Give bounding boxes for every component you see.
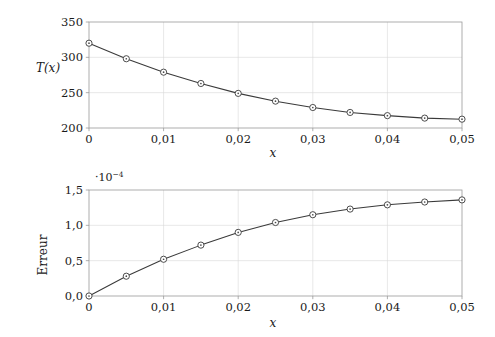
chart-error-profile: 00,010,020,030,040,05 0,00,51,01,5 ·10−4…: [0, 160, 495, 337]
y-tick-label: 1,0: [65, 218, 83, 232]
data-point-center: [125, 275, 127, 277]
data-point-center: [461, 199, 463, 201]
data-point-center: [424, 117, 426, 119]
data-point-center: [461, 118, 463, 120]
x-tick-label: 0,01: [151, 300, 177, 314]
top-y-tick-labels: 200250300350: [61, 15, 83, 135]
y-tick-label: 0,0: [65, 289, 83, 303]
data-point-center: [312, 214, 314, 216]
data-point-center: [163, 258, 165, 260]
x-tick-label: 0,03: [300, 132, 326, 146]
x-tick-label: 0,05: [449, 300, 475, 314]
data-point-center: [237, 232, 239, 234]
data-point-center: [88, 42, 90, 44]
x-tick-label: 0,03: [300, 300, 326, 314]
figure-container: 00,010,020,030,040,05 200250300350 T(x) …: [0, 0, 495, 337]
bottom-gridlines: [89, 190, 462, 296]
top-y-axis-label: T(x): [36, 61, 60, 75]
top-plot-frame: [89, 22, 462, 128]
data-point-center: [275, 222, 277, 224]
data-point-center: [387, 115, 389, 117]
y-tick-label: 250: [61, 86, 83, 100]
top-data-markers: [86, 40, 465, 122]
bottom-data-line: [89, 200, 462, 296]
x-tick-label: 0: [85, 132, 92, 146]
x-tick-label: 0,02: [225, 300, 251, 314]
x-tick-label: 0,04: [375, 132, 401, 146]
x-tick-label: 0,05: [449, 132, 475, 146]
y-tick-label: 1,5: [65, 183, 83, 197]
bottom-y-exponent-label: ·10−4: [95, 170, 124, 184]
data-point-center: [163, 71, 165, 73]
data-point-center: [237, 93, 239, 95]
chart-temperature-profile: 00,010,020,030,040,05 200250300350 T(x) …: [0, 0, 495, 170]
bottom-x-tick-labels: 00,010,020,030,040,05: [85, 300, 474, 314]
y-tick-label: 200: [61, 121, 83, 135]
chart-bottom-svg: 00,010,020,030,040,05 0,00,51,01,5 ·10−4…: [0, 160, 495, 337]
x-tick-label: 0,01: [151, 132, 177, 146]
top-tickmarks: [86, 22, 462, 131]
bottom-x-axis-label: x: [270, 316, 277, 330]
data-point-center: [387, 204, 389, 206]
bottom-plot-frame: [89, 190, 462, 296]
bottom-data-markers: [86, 197, 465, 299]
top-gridlines: [89, 22, 462, 128]
x-tick-label: 0: [85, 300, 92, 314]
bottom-y-tick-labels: 0,00,51,01,5: [65, 183, 83, 303]
data-point-center: [312, 107, 314, 109]
top-data-line: [89, 43, 462, 119]
data-point-center: [349, 208, 351, 210]
data-point-center: [88, 295, 90, 297]
data-point-center: [275, 100, 277, 102]
data-point-center: [424, 201, 426, 203]
x-tick-label: 0,04: [375, 300, 401, 314]
chart-top-svg: 00,010,020,030,040,05 200250300350 T(x) …: [0, 0, 495, 170]
bottom-y-axis-label: Erreur: [36, 234, 50, 275]
x-tick-label: 0,02: [225, 132, 251, 146]
top-x-tick-labels: 00,010,020,030,040,05: [85, 132, 474, 146]
bottom-tickmarks: [86, 190, 462, 299]
y-tick-label: 0,5: [65, 254, 83, 268]
data-point-center: [349, 112, 351, 114]
y-tick-label: 350: [61, 15, 83, 29]
data-point-center: [200, 83, 202, 85]
data-point-center: [125, 58, 127, 60]
y-tick-label: 300: [61, 50, 83, 64]
data-point-center: [200, 244, 202, 246]
top-x-axis-label: x: [270, 146, 277, 160]
